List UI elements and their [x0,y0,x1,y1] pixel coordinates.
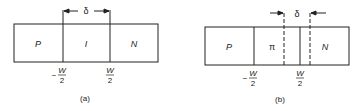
region-p-a: P [35,39,41,49]
region-i-a: I [85,39,88,49]
left-den-a: 2 [60,76,65,85]
figure-b [205,11,349,65]
minus-sign-a: − [52,71,57,80]
left-den-b: 2 [251,79,256,88]
right-num-a: W [106,66,115,75]
right-num-b: W [296,69,305,78]
arrowhead-icon [278,11,283,15]
delta-label-a: δ [83,6,88,16]
delta-label-b: δ [294,9,299,19]
region-p-b: P [226,42,232,52]
right-den-b: 2 [298,79,303,88]
pin-diode-diagrams: δ P I N − W 2 W 2 (a) δ P π N − W 2 W 2 … [0,0,357,111]
right-den-a: 2 [108,76,113,85]
region-n-a: N [131,39,138,49]
arrowhead-icon [311,11,316,15]
caption-a: (a) [80,94,90,103]
arrowhead-icon [104,9,109,13]
left-num-a: W [58,66,67,75]
caption-b: (b) [275,95,285,104]
figure-a [14,9,158,62]
region-pi-b: π [269,42,275,52]
left-num-b: W [249,69,258,78]
region-n-b: N [322,42,329,52]
arrowhead-icon [64,9,69,13]
minus-sign-b: − [243,74,248,83]
